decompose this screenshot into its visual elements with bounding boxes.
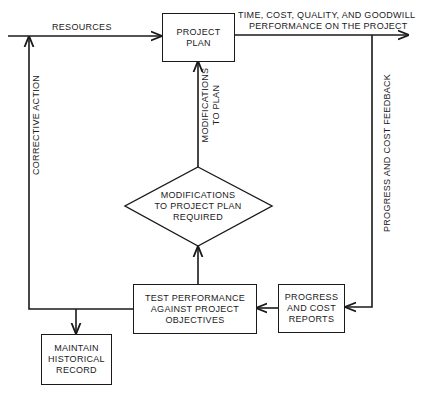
output-label-line1: TIME, COST, QUALITY, AND GOODWILL <box>238 10 415 21</box>
corrective-action-arrow <box>29 37 133 309</box>
modifications-to-plan-label: MODIFICATIONS TO PLAN <box>200 65 224 145</box>
progress-reports-box: PROGRESS AND COST REPORTS <box>278 284 345 333</box>
output-label-line2: PERFORMANCE ON THE PROJECT <box>249 21 408 32</box>
modifications-to-plan-line1: MODIFICATIONS <box>200 65 211 145</box>
test-performance-line1: TEST PERFORMANCE <box>145 293 245 304</box>
test-performance-line2: AGAINST PROJECT <box>145 304 245 315</box>
progress-reports-line1: PROGRESS <box>285 292 338 303</box>
historical-record-box: MAINTAIN HISTORICAL RECORD <box>41 334 112 385</box>
test-performance-box: TEST PERFORMANCE AGAINST PROJECT OBJECTI… <box>133 284 257 334</box>
project-plan-box: PROJECT PLAN <box>162 13 235 62</box>
project-plan-line2: PLAN <box>176 38 220 49</box>
historical-record-line2: HISTORICAL <box>48 354 105 365</box>
decision-line1: MODIFICATIONS <box>138 190 258 201</box>
feedback-arrow <box>346 35 372 307</box>
progress-feedback-label: PROGRESS AND COST FEEDBACK <box>382 102 394 232</box>
historical-record-line3: RECORD <box>48 365 105 376</box>
decision-line3: REQUIRED <box>138 212 258 223</box>
decision-line2: TO PROJECT PLAN <box>138 201 258 212</box>
resources-label: RESOURCES <box>52 22 112 33</box>
historical-record-line1: MAINTAIN <box>48 343 105 354</box>
progress-reports-line2: AND COST <box>285 303 338 314</box>
project-plan-line1: PROJECT <box>176 27 220 38</box>
test-performance-line3: OBJECTIVES <box>145 315 245 326</box>
corrective-action-label: CORRECTIVE ACTION <box>31 85 43 175</box>
progress-reports-line3: REPORTS <box>285 314 338 325</box>
modifications-to-plan-line2: TO PLAN <box>211 65 222 145</box>
decision-node-text: MODIFICATIONS TO PROJECT PLAN REQUIRED <box>138 190 258 223</box>
